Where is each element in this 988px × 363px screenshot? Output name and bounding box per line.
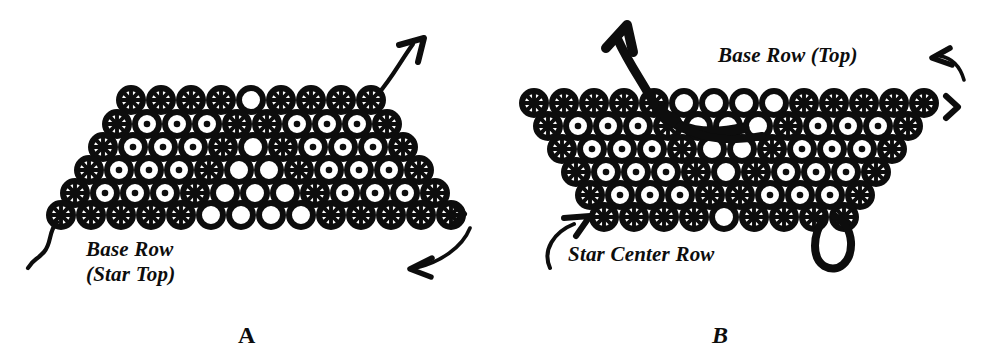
bead-ring	[229, 203, 253, 227]
bead-dot	[596, 114, 620, 138]
bead-center-dot	[102, 190, 109, 197]
bead-star	[109, 203, 133, 227]
bead-ring	[239, 88, 263, 112]
bead-open	[712, 205, 736, 229]
panel-a-bead-grid	[49, 88, 463, 227]
bead-star	[179, 88, 203, 112]
bead-star	[271, 135, 295, 159]
thread-tail-a	[28, 222, 57, 268]
bead-dot	[285, 112, 309, 136]
bead-center-dot	[635, 123, 642, 130]
bead-star	[211, 135, 235, 159]
bead-ring	[199, 203, 223, 227]
bead-dot	[820, 137, 844, 161]
bead-center-dot	[767, 192, 774, 199]
bead-center-dot	[160, 144, 167, 151]
bead-center-dot	[875, 123, 882, 130]
bead-center-dot	[190, 144, 197, 151]
bead-dot	[137, 158, 161, 182]
bead-star	[255, 112, 279, 136]
bead-star	[864, 160, 888, 184]
bead-star	[564, 160, 588, 184]
bead-star	[91, 135, 115, 159]
bead-center-dot	[174, 121, 181, 128]
bead-center-dot	[799, 146, 806, 153]
bead-star	[684, 160, 708, 184]
bead-star	[522, 91, 546, 115]
bead-star	[550, 137, 574, 161]
bead-dot	[626, 114, 650, 138]
bead-dot	[850, 137, 874, 161]
bead-center-dot	[663, 169, 670, 176]
bead-center-dot	[845, 123, 852, 130]
bead-open	[762, 91, 786, 115]
bead-center-dot	[815, 123, 822, 130]
bead-star	[49, 203, 73, 227]
bead-dot	[167, 158, 191, 182]
bead-ring	[259, 203, 283, 227]
bead-ring	[289, 203, 313, 227]
bead-star	[119, 88, 143, 112]
bead-center-dot	[603, 169, 610, 176]
bead-center-dot	[386, 167, 393, 174]
bead-star	[209, 88, 233, 112]
bead-center-dot	[294, 121, 301, 128]
bead-dot	[804, 160, 828, 184]
bead-center-dot	[402, 190, 409, 197]
bead-center-dot	[176, 167, 183, 174]
bead-open	[259, 203, 283, 227]
bead-star	[329, 88, 353, 112]
bead-center-dot	[813, 169, 820, 176]
bead-dot	[301, 135, 325, 159]
bead-center-dot	[340, 144, 347, 151]
bead-star	[670, 137, 694, 161]
bead-dot	[195, 112, 219, 136]
bead-star	[225, 112, 249, 136]
bead-dot	[654, 160, 678, 184]
bead-ring	[241, 135, 265, 159]
bead-center-dot	[204, 121, 211, 128]
bead-ring	[762, 91, 786, 115]
bead-center-dot	[829, 146, 836, 153]
bead-dot	[317, 158, 341, 182]
bead-center-dot	[370, 144, 377, 151]
bead-open	[702, 91, 726, 115]
bead-dot	[866, 114, 890, 138]
bead-star	[760, 137, 784, 161]
bead-star	[612, 91, 636, 115]
bead-ring	[702, 91, 726, 115]
bead-star	[880, 137, 904, 161]
bead-star	[105, 112, 129, 136]
bead-open	[241, 135, 265, 159]
bead-open	[714, 160, 738, 184]
bead-dot	[580, 137, 604, 161]
bead-dot	[107, 158, 131, 182]
bead-ring	[712, 205, 736, 229]
bead-dot	[624, 160, 648, 184]
bead-star	[776, 114, 800, 138]
bead-star	[407, 158, 431, 182]
bead-dot	[806, 114, 830, 138]
bead-dot	[640, 137, 664, 161]
bead-star	[772, 205, 796, 229]
panel-b: Base Row (Top) Star Center Row B	[494, 0, 988, 363]
bead-star	[652, 205, 676, 229]
bead-dot	[121, 135, 145, 159]
bead-center-dot	[797, 192, 804, 199]
bead-dot	[151, 135, 175, 159]
caption-star-center-row: Star Center Row	[568, 243, 715, 267]
bead-center-dot	[144, 121, 151, 128]
bead-star	[269, 88, 293, 112]
bead-star	[349, 203, 373, 227]
bead-dot	[347, 158, 371, 182]
bead-star	[379, 203, 403, 227]
bead-center-dot	[130, 144, 137, 151]
bead-center-dot	[843, 169, 850, 176]
bead-center-dot	[116, 167, 123, 174]
bead-ring	[714, 160, 738, 184]
bead-open	[672, 91, 696, 115]
bead-center-dot	[647, 192, 654, 199]
bead-dot	[315, 112, 339, 136]
bead-star	[169, 203, 193, 227]
bead-star	[896, 114, 920, 138]
